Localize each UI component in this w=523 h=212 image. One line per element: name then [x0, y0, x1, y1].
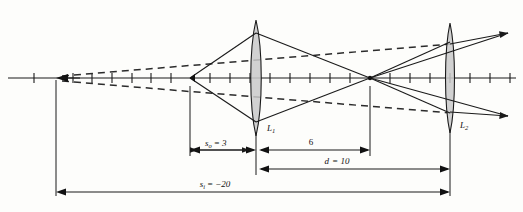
ray-through-lens2-rising	[370, 33, 508, 78]
lens-2-group	[446, 23, 455, 133]
object-point-marker	[190, 74, 195, 82]
ray-object-to-lens1-bottom	[190, 78, 256, 122]
dim-arrowhead-si-left	[56, 189, 66, 196]
ray-object-to-lens1-top	[190, 33, 256, 78]
lens-1-group	[251, 20, 262, 136]
dimension-image-distance: si= −20	[56, 179, 450, 196]
lens-1-label: L1	[266, 123, 275, 134]
label-image-distance: si= −20	[200, 179, 231, 190]
label-middle-distance: 6	[309, 137, 314, 147]
ray-diagram-svg: so= 3 6 d= 10 si= −20	[0, 0, 523, 212]
dim-arrowhead-d-left	[259, 166, 269, 173]
dimension-object-distance: so= 3	[190, 138, 256, 154]
ray-lens1-top-to-image	[256, 33, 370, 78]
dim-arrowhead-d-right	[440, 166, 450, 173]
ray-lens1-bottom-to-image	[256, 78, 370, 122]
dim-arrowhead-six-left	[259, 147, 269, 154]
dimension-separation: d= 10	[259, 156, 450, 173]
ray-image-to-lens2-bottom	[370, 78, 450, 113]
label-object-distance: so= 3	[205, 138, 227, 149]
dim-arrowhead-si-right	[440, 189, 450, 196]
lens-2-body	[446, 23, 455, 133]
label-separation: d= 10	[325, 156, 350, 166]
lens-2-label: L2	[459, 120, 469, 131]
lens-1-body	[251, 20, 262, 136]
intermediate-image-marker	[368, 76, 372, 80]
dim-arrowhead-six-right	[360, 147, 370, 154]
optical-axis-group	[8, 73, 516, 83]
dimension-middle: 6	[259, 137, 370, 154]
optics-figure: so= 3 6 d= 10 si= −20	[0, 0, 523, 212]
